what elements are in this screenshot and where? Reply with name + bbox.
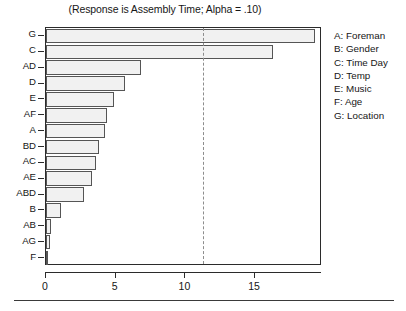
bar-B [46,203,322,218]
legend-item-B: B: Gender [334,42,406,55]
x-axis-line [45,272,321,273]
bar-BD [46,140,322,155]
bar-D [46,76,322,91]
bar-ABD [46,187,322,202]
bar-fill-F [46,251,48,266]
plot-inner [46,28,320,264]
x-tick-15 [254,272,255,278]
y-tick-BD [38,146,44,147]
bar-fill-AB [46,219,51,234]
bar-fill-B [46,203,61,218]
x-tick-0 [45,272,46,278]
significance-reference-line [203,28,204,264]
bar-AB [46,219,322,234]
y-tick-A [38,130,44,131]
bar-AE [46,171,322,186]
legend-item-E: E: Music [334,82,406,95]
legend-item-G: G: Location [334,109,406,122]
legend-item-C: C: Time Day [334,56,406,69]
y-tick-AC [38,162,44,163]
y-axis-label-F: F [0,252,36,262]
y-axis-label-AF: AF [0,109,36,119]
y-axis-label-A: A [0,125,36,135]
x-tick-10 [184,272,185,278]
y-axis-label-AB: AB [0,220,36,230]
y-axis-label-AD: AD [0,61,36,71]
bar-fill-A [46,124,105,139]
x-axis-label-15: 15 [239,280,269,292]
bar-fill-G [46,29,315,44]
legend-item-D: D: Temp [334,69,406,82]
y-tick-C [38,51,44,52]
caption-divider [14,300,394,301]
y-axis-label-E: E [0,93,36,103]
bar-fill-AE [46,171,92,186]
y-tick-F [38,257,44,258]
y-tick-D [38,83,44,84]
bar-E [46,92,322,107]
y-tick-AD [38,67,44,68]
y-tick-AE [38,178,44,179]
x-axis-label-0: 0 [30,280,60,292]
y-axis-label-D: D [0,77,36,87]
y-tick-AF [38,114,44,115]
bar-fill-C [46,45,273,60]
chart-title: (Response is Assembly Time; Alpha = .10) [0,3,330,15]
bar-A [46,124,322,139]
bar-fill-AD [46,60,141,75]
y-axis-label-B: B [0,204,36,214]
bar-F [46,251,322,266]
y-axis-label-ABD: ABD [0,188,36,198]
x-tick-5 [115,272,116,278]
legend: A: ForemanB: GenderC: Time DayD: TempE: … [334,29,406,122]
y-tick-AG [38,241,44,242]
bar-C [46,45,322,60]
y-tick-AB [38,225,44,226]
plot-area [45,27,321,265]
y-tick-B [38,209,44,210]
bar-fill-ABD [46,187,84,202]
bar-G [46,29,322,44]
figure-caption [16,303,394,311]
bar-fill-E [46,92,114,107]
bar-AF [46,108,322,123]
y-tick-E [38,98,44,99]
y-axis-label-AC: AC [0,156,36,166]
legend-item-F: F: Age [334,95,406,108]
y-axis-label-G: G [0,29,36,39]
bar-fill-AG [46,235,50,250]
legend-item-A: A: Foreman [334,29,406,42]
bar-fill-BD [46,140,99,155]
x-axis-label-10: 10 [169,280,199,292]
bar-AG [46,235,322,250]
y-tick-ABD [38,194,44,195]
y-tick-G [38,35,44,36]
bar-AC [46,156,322,171]
y-axis-label-AE: AE [0,172,36,182]
y-axis-label-C: C [0,45,36,55]
bar-fill-D [46,76,125,91]
y-axis-label-BD: BD [0,141,36,151]
bar-fill-AF [46,108,107,123]
pareto-chart-figure: (Response is Assembly Time; Alpha = .10)… [0,0,406,311]
bar-fill-AC [46,156,96,171]
x-axis-label-5: 5 [100,280,130,292]
bar-AD [46,60,322,75]
y-axis-label-AG: AG [0,236,36,246]
